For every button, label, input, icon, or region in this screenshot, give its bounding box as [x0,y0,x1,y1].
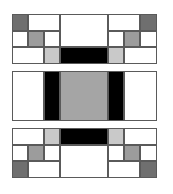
tile-white [12,31,28,47]
tile-white [44,31,60,47]
tile-white [140,31,157,47]
top-block [12,14,157,64]
tile-light-gray [108,47,124,64]
tile-white [44,145,60,161]
tile-center-gray [60,71,108,121]
tile-dark-gray [140,14,157,31]
tile-black [60,47,108,64]
tile-mid-gray [28,145,44,161]
tile-mid-gray [124,31,140,47]
tile-white [28,14,60,31]
tile-light-gray [44,128,60,145]
tile-white [12,71,44,121]
tile-white [108,145,124,161]
tile-white [108,31,124,47]
tile-white [12,47,44,64]
tile-light-gray [108,128,124,145]
tile-white [108,14,140,31]
tile-dark-gray [140,161,157,178]
tile-white [12,145,28,161]
bottom-block [12,128,157,178]
tile-light-gray [44,47,60,64]
tile-white [124,128,157,145]
tile-white [12,128,44,145]
tile-mid-gray [124,145,140,161]
tile-white [60,145,108,178]
tile-white [108,161,140,178]
tile-dark-gray [12,14,28,31]
tile-white [124,71,157,121]
tile-white [60,14,108,47]
tile-black [108,71,124,121]
tile-white [28,161,60,178]
tile-white [124,47,157,64]
middle-block [12,71,157,121]
tile-dark-gray [12,161,28,178]
tile-white [140,145,157,161]
tile-black [44,71,60,121]
tile-mid-gray [28,31,44,47]
tile-black [60,128,108,145]
